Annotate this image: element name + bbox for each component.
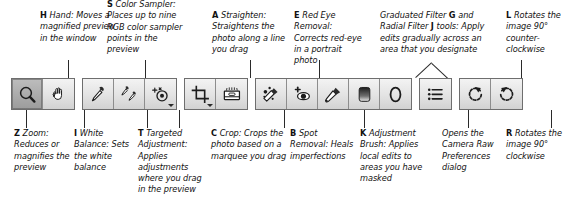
radial-filter-tool-button[interactable] bbox=[380, 79, 411, 109]
callout-text-zoom: Zoom: Reduces or magnifies the preview bbox=[14, 128, 70, 172]
rotate-counter-clockwise-icon bbox=[466, 85, 485, 104]
color-sampler-tool-button[interactable] bbox=[114, 79, 145, 109]
toolbar-group-preferences bbox=[419, 78, 452, 110]
straighten-tool-button[interactable] bbox=[216, 79, 247, 109]
callout-key-e: E bbox=[294, 10, 300, 20]
callout-crop: C Crop: Crops the photo based on a marqu… bbox=[211, 128, 295, 162]
leader-line-spot-removal bbox=[284, 110, 285, 128]
targeted-adjustment-tool-button[interactable] bbox=[145, 79, 176, 109]
targeted-adjustment-icon bbox=[151, 85, 170, 104]
spot-removal-tool-button[interactable] bbox=[256, 79, 287, 109]
crop-tool-button[interactable] bbox=[185, 79, 216, 109]
callout-text-white-balance: White Balance: Sets the white balance bbox=[74, 128, 129, 172]
toolbar-group-rotation bbox=[459, 78, 523, 110]
toolbar-group-retouch bbox=[255, 78, 412, 110]
callout-key-i: I bbox=[74, 128, 77, 138]
callout-text-hand: Hand: Moves a magnified preview in the w… bbox=[40, 10, 115, 43]
callout-text-rotate-ccw: Rotates the image 90° counter-clockwise bbox=[506, 10, 561, 54]
leader-line-radial-filter bbox=[415, 62, 432, 78]
callout-key-g: G bbox=[449, 10, 456, 20]
callout-key-r: R bbox=[506, 128, 512, 138]
adjustment-brush-icon bbox=[324, 85, 343, 104]
zoom-tool-button[interactable] bbox=[12, 79, 43, 109]
rotate-clockwise-icon bbox=[497, 85, 516, 104]
callout-text-spot-removal: Spot Removal: Heals imperfections bbox=[290, 128, 353, 161]
callout-red-eye: E Red Eye Removal: Corrects red-eye in a… bbox=[294, 10, 366, 66]
callout-rotate-ccw: L Rotates the image 90° counter-clockwis… bbox=[506, 10, 564, 55]
rotate-clockwise-button[interactable] bbox=[491, 79, 522, 109]
radial-filter-icon bbox=[386, 85, 405, 104]
callout-key-z: Z bbox=[14, 128, 20, 138]
graduated-filter-tool-button[interactable] bbox=[349, 79, 380, 109]
zoom-icon bbox=[18, 85, 37, 104]
callout-text-straighten: Straighten: Straightens the photo along … bbox=[212, 10, 285, 54]
leader-line-rotate-ccw bbox=[521, 60, 522, 78]
rotate-counter-clockwise-button[interactable] bbox=[460, 79, 491, 109]
leader-line-rotate-cw bbox=[551, 110, 552, 128]
callout-key-c: C bbox=[211, 128, 217, 138]
hand-icon bbox=[49, 85, 68, 104]
callout-text-targeted-adjustment: Targeted Adjustment: Applies adjustments… bbox=[138, 128, 202, 194]
leader-line-adjustment-brush bbox=[364, 110, 365, 128]
callout-text-color-sampler: Color Sampler: Places up to nine RGB col… bbox=[107, 0, 182, 54]
toolbar-group-navigation bbox=[11, 78, 75, 110]
leader-line-graduated-filter bbox=[431, 63, 448, 79]
callout-key-h: H bbox=[40, 10, 47, 20]
callout-key-b: B bbox=[290, 128, 296, 138]
callout-text-preferences: Opens the Camera Raw Preferences dialog bbox=[442, 128, 494, 172]
callout-targeted-adjustment: T Targeted Adjustment: Applies adjustmen… bbox=[138, 128, 202, 196]
callout-zoom: Z Zoom: Reduces or magnifies the preview bbox=[14, 128, 76, 173]
chevron-down-icon[interactable] bbox=[168, 104, 174, 107]
callout-white-balance: I White Balance: Sets the white balance bbox=[74, 128, 134, 173]
callout-key-a: A bbox=[212, 10, 218, 20]
callout-text-red-eye: Red Eye Removal: Corrects red-eye in a p… bbox=[294, 10, 362, 65]
hand-tool-button[interactable] bbox=[43, 79, 74, 109]
white-balance-tool-button[interactable] bbox=[83, 79, 114, 109]
callout-text-graduated-1: Graduated Filter bbox=[380, 10, 449, 20]
callout-color-sampler: S Color Sampler: Places up to nine RGB c… bbox=[107, 0, 191, 55]
callout-rotate-cw: R Rotates the image 90° clockwise bbox=[506, 128, 568, 162]
leader-line-preferences bbox=[468, 110, 469, 128]
straighten-icon bbox=[222, 85, 242, 104]
crop-icon bbox=[191, 85, 210, 104]
callout-text-adjustment-brush: Adjustment Brush: Applies local edits to… bbox=[360, 128, 422, 183]
adjustment-brush-tool-button[interactable] bbox=[318, 79, 349, 109]
callout-graduated-radial-filter: Graduated Filter G and Radial Filter J t… bbox=[380, 10, 490, 55]
chevron-down-icon[interactable] bbox=[207, 104, 213, 107]
callout-preferences: Opens the Camera Raw Preferences dialog bbox=[442, 128, 500, 173]
callout-key-l: L bbox=[506, 10, 511, 20]
leader-line-white-balance bbox=[84, 110, 85, 128]
leader-line-targeted-adjustment bbox=[147, 110, 148, 128]
toolbar-group-geometry bbox=[184, 78, 248, 110]
leader-line-color-sampler bbox=[145, 60, 146, 78]
callout-key-s: S bbox=[107, 0, 113, 9]
camera-raw-toolbar bbox=[11, 78, 523, 110]
preferences-icon bbox=[426, 85, 445, 104]
color-sampler-icon bbox=[120, 85, 139, 104]
leader-line-red-eye bbox=[319, 60, 320, 78]
callout-text-rotate-cw: Rotates the image 90° clockwise bbox=[506, 128, 562, 161]
callout-text-crop: Crop: Crops the photo based on a marquee… bbox=[211, 128, 286, 161]
callout-key-t: T bbox=[138, 128, 144, 138]
graduated-filter-icon bbox=[355, 85, 374, 104]
callout-key-k: K bbox=[360, 128, 366, 138]
white-balance-icon bbox=[89, 85, 108, 104]
red-eye-removal-icon bbox=[293, 85, 312, 104]
toolbar-group-sampling bbox=[82, 78, 177, 110]
callout-straighten: A Straighten: Straightens the photo alon… bbox=[212, 10, 290, 55]
leader-line-hand bbox=[68, 60, 69, 78]
preferences-button[interactable] bbox=[420, 79, 451, 109]
spot-removal-icon bbox=[262, 85, 281, 104]
red-eye-removal-tool-button[interactable] bbox=[287, 79, 318, 109]
leader-line-straighten bbox=[250, 60, 251, 78]
leader-line-zoom bbox=[26, 110, 27, 128]
callout-adjustment-brush: K Adjustment Brush: Applies local edits … bbox=[360, 128, 434, 184]
leader-line-crop bbox=[179, 110, 180, 128]
callout-spot-removal: B Spot Removal: Heals imperfections bbox=[290, 128, 358, 162]
